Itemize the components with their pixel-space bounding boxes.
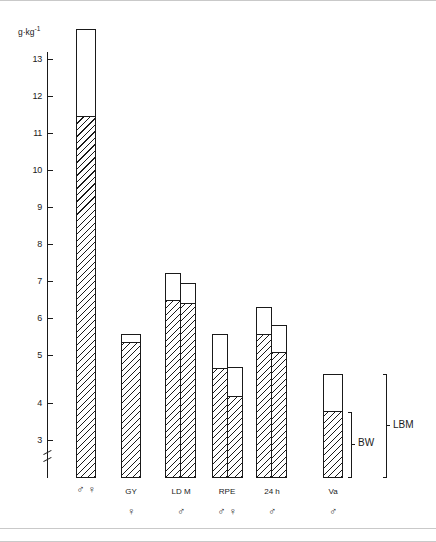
bar-group5-bar2 [271, 325, 287, 478]
y-tick-8 [48, 244, 53, 245]
y-axis-line [47, 52, 48, 478]
y-tick-label-7: 7 [26, 277, 42, 286]
bar-group2-bar1-lbm [122, 342, 140, 477]
bar-group3-bar2 [180, 283, 196, 478]
y-tick-label-6: 6 [26, 314, 42, 323]
y-tick-label-11: 11 [26, 129, 42, 138]
bw-bracket [348, 412, 356, 478]
y-tick-11 [48, 133, 53, 134]
y-tick-label-8: 8 [26, 240, 42, 249]
chart-figure: g·kg-1 13 12 11 10 9 8 7 6 5 4 3 [0, 0, 436, 542]
lbm-bracket-label: LBM [393, 420, 414, 430]
y-tick-13 [48, 59, 53, 60]
bw-bracket-arm-top [348, 412, 352, 413]
lbm-bracket-arm-top [383, 374, 387, 375]
page-bottom-rule [0, 528, 436, 529]
group-symbols-6: ♂ [303, 506, 363, 517]
bar-group5-bar1 [256, 307, 272, 478]
y-axis-unit-exponent: -1 [35, 25, 41, 32]
y-tick-5 [48, 355, 53, 356]
bar-group5-bar2-lbm [272, 352, 286, 477]
bar-group3-bar1 [165, 273, 181, 478]
y-tick-12 [48, 96, 53, 97]
y-tick-label-12: 12 [26, 92, 42, 101]
bar-group1-bar1 [76, 29, 96, 478]
page-top-rule [0, 0, 436, 1]
bar-group4-bar1 [212, 334, 228, 478]
bar-group6-bar1 [323, 374, 343, 478]
y-tick-3 [48, 440, 53, 441]
y-tick-label-5: 5 [26, 351, 42, 360]
y-axis-unit-base: g·kg [18, 27, 35, 37]
bar-group3-bar2-lbm [181, 303, 195, 477]
lbm-bracket-tip [386, 425, 390, 426]
group-symbols-5: ♂ [242, 506, 302, 517]
y-tick-6 [48, 318, 53, 319]
lbm-bracket-arm-bottom [383, 477, 387, 478]
y-tick-label-3: 3 [26, 436, 42, 445]
y-tick-label-9: 9 [26, 203, 42, 212]
lbm-bracket [383, 374, 391, 478]
y-axis-unit-label: g·kg-1 [18, 24, 40, 37]
bw-bracket-label: BW [358, 438, 374, 448]
y-tick-10 [48, 170, 53, 171]
group-label-6: Va [303, 487, 363, 496]
bar-group4-bar2-lbm [228, 396, 242, 477]
bar-group1-bar1-lbm [77, 116, 95, 477]
y-tick-label-4: 4 [26, 399, 42, 408]
bw-bracket-arm-bottom [348, 477, 352, 478]
bar-group6-bar1-lbm [324, 411, 342, 477]
bar-group4-bar1-lbm [213, 368, 227, 477]
y-tick-9 [48, 207, 53, 208]
y-tick-label-10: 10 [26, 166, 42, 175]
y-tick-label-13: 13 [26, 55, 42, 64]
bar-group3-bar1-lbm [166, 300, 180, 477]
bar-group5-bar1-lbm [257, 334, 271, 477]
bar-group2-bar1 [121, 334, 141, 478]
y-tick-4 [48, 403, 53, 404]
group-label-5: 24 h [242, 487, 302, 496]
bw-bracket-tip [351, 444, 355, 445]
bar-group4-bar2 [227, 367, 243, 478]
y-tick-7 [48, 281, 53, 282]
